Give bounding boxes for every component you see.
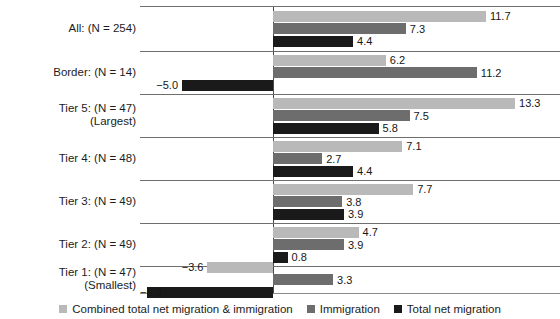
category-label-5: Tier 3: (N = 49) (0, 195, 136, 209)
bar-row7-series1 (207, 262, 273, 273)
category-label-3: Tier 5: (N = 47)(Largest) (0, 102, 136, 129)
chart-legend: Combined total net migration & immigrati… (0, 299, 560, 319)
legend-label-2: Immigration (320, 303, 380, 315)
bar-row1-series3 (273, 36, 353, 47)
row-separator (140, 94, 560, 95)
category-label-2: Border: (N = 14) (0, 66, 136, 80)
bar-row3-series3 (273, 123, 379, 134)
category-label-line2: (Smallest) (0, 279, 136, 293)
bar-row2-series2 (273, 67, 477, 78)
bar-row6-series2 (273, 239, 344, 250)
legend-swatch-icon-1 (59, 305, 67, 313)
category-label-line1: Tier 2: (N = 49) (59, 238, 136, 250)
value-label-row7-series1: −3.6 (140, 262, 203, 273)
bar-row3-series1 (273, 98, 515, 109)
row-separator (140, 223, 560, 224)
value-label-row6-series3: 0.8 (292, 252, 307, 263)
category-label-line1: Tier 4: (N = 48) (59, 152, 136, 164)
row-separator (140, 180, 560, 181)
legend-swatch-icon-3 (394, 305, 402, 313)
value-label-row2-series3: −5.0 (140, 80, 178, 91)
bar-row1-series1 (273, 11, 486, 22)
value-label-row4-series2: 2.7 (326, 154, 341, 165)
row-separator (140, 137, 560, 138)
value-label-row3-series2: 7.5 (414, 111, 429, 122)
legend-item-1[interactable]: Combined total net migration & immigrati… (59, 303, 293, 315)
bar-row5-series2 (273, 196, 342, 207)
value-label-row4-series3: 4.4 (357, 166, 372, 177)
bar-row4-series2 (273, 153, 322, 164)
plot-area: 11.77.34.46.211.2−5.013.37.55.87.12.74.4… (140, 0, 560, 299)
value-label-row3-series3: 5.8 (383, 123, 398, 134)
value-label-row1-series2: 7.3 (410, 24, 425, 35)
value-label-row7-series2: 3.3 (337, 275, 352, 286)
category-label-line2: (Largest) (0, 115, 136, 129)
bar-row1-series2 (273, 23, 406, 34)
value-label-row7-series3: −6.9 (140, 287, 143, 298)
value-label-row5-series1: 7.7 (417, 184, 432, 195)
row-separator (140, 6, 560, 7)
category-label-6: Tier 2: (N = 49) (0, 238, 136, 252)
legend-label-1: Combined total net migration & immigrati… (72, 303, 293, 315)
bar-row2-series3 (182, 80, 273, 91)
category-label-line1: Tier 1: (N = 47) (59, 266, 136, 278)
row-separator (140, 51, 560, 52)
bar-row3-series2 (273, 110, 410, 121)
value-label-row2-series1: 6.2 (390, 55, 405, 66)
bar-row5-series3 (273, 209, 344, 220)
value-label-row1-series3: 4.4 (357, 36, 372, 47)
category-label-line1: Tier 5: (N = 47) (59, 102, 136, 114)
legend-item-2[interactable]: Immigration (307, 303, 380, 315)
value-label-row6-series2: 3.9 (348, 240, 363, 251)
value-label-row4-series1: 7.1 (406, 141, 421, 152)
bar-row4-series3 (273, 166, 353, 177)
bar-row6-series3 (273, 252, 288, 263)
category-label-line1: All: (N = 254) (69, 22, 136, 34)
value-label-row6-series1: 4.7 (363, 227, 378, 238)
bar-row5-series1 (273, 184, 413, 195)
value-label-row3-series1: 13.3 (519, 98, 540, 109)
bar-row7-series2 (273, 274, 333, 285)
category-label-line1: Border: (N = 14) (53, 66, 136, 78)
legend-item-3[interactable]: Total net migration (394, 303, 501, 315)
bar-row4-series1 (273, 141, 402, 152)
value-label-row2-series2: 11.2 (481, 68, 502, 79)
category-label-7: Tier 1: (N = 47)(Smallest) (0, 266, 136, 293)
horizontal-bar-chart: All: (N = 254)Border: (N = 14)Tier 5: (N… (0, 0, 560, 319)
legend-label-3: Total net migration (407, 303, 501, 315)
value-label-row1-series1: 11.7 (490, 11, 511, 22)
bar-row2-series1 (273, 55, 386, 66)
value-label-row5-series3: 3.9 (348, 209, 363, 220)
bar-row7-series3 (147, 287, 273, 298)
category-label-line1: Tier 3: (N = 49) (59, 195, 136, 207)
category-label-1: All: (N = 254) (0, 22, 136, 36)
category-label-4: Tier 4: (N = 48) (0, 152, 136, 166)
bar-row6-series1 (273, 227, 359, 238)
legend-swatch-icon-2 (307, 305, 315, 313)
value-label-row5-series2: 3.8 (346, 197, 361, 208)
